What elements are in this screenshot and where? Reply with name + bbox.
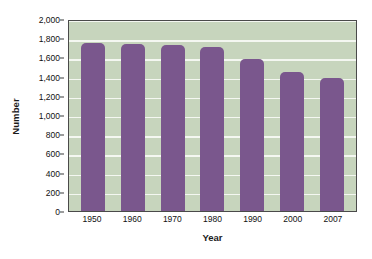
x-axis-tick-label: 2000 [281,214,305,230]
y-axis-tick-mark [60,77,64,78]
bar[interactable] [121,44,145,211]
bar[interactable] [200,47,224,211]
x-axis-tick-label: 1960 [120,214,144,230]
y-axis-tick-labels: 02004006008001,0001,2001,4001,6001,8002,… [22,20,64,212]
y-axis-tick-label: 400 [46,169,60,179]
x-axis-title: Year [68,232,357,243]
x-axis-tick-labels: 1950196019701980199020002007 [68,214,357,230]
y-axis-tick-mark [60,39,64,40]
y-axis-tick-mark [60,192,64,193]
bar-series [69,21,356,211]
y-axis-tick-label: 200 [46,188,60,198]
bar[interactable] [240,59,264,211]
y-axis-tick-mark [60,58,64,59]
y-axis-tick-label: 800 [46,130,60,140]
y-axis-tick-label: 1,400 [39,73,60,83]
y-axis-tick-mark [60,96,64,97]
plot-area [68,20,357,212]
y-axis-tick-label: 1,000 [39,111,60,121]
y-axis-tick-mark [60,135,64,136]
bar[interactable] [280,72,304,211]
x-axis-tick-label: 1950 [80,214,104,230]
bar[interactable] [320,78,344,211]
y-axis-tick-mark [60,173,64,174]
x-axis-tick-label: 1990 [241,214,265,230]
y-axis-tick-mark [60,154,64,155]
y-axis-tick-mark [60,20,64,21]
bar[interactable] [81,43,105,211]
x-axis-tick-label: 2007 [321,214,345,230]
y-axis-tick-label: 600 [46,149,60,159]
y-axis-tick-label: 1,800 [39,34,60,44]
bar[interactable] [161,45,185,211]
y-axis-tick-label: 1,200 [39,92,60,102]
y-axis-tick-label: 1,600 [39,53,60,63]
y-axis-tick-label: 2,000 [39,15,60,25]
y-axis-tick-mark [60,116,64,117]
x-axis-tick-label: 1970 [160,214,184,230]
y-axis-title-text: Number [10,98,21,135]
y-axis-tick-mark [60,212,64,213]
bar-chart-figure: Number 02004006008001,0001,2001,4001,600… [0,0,372,259]
x-axis-tick-label: 1980 [200,214,224,230]
